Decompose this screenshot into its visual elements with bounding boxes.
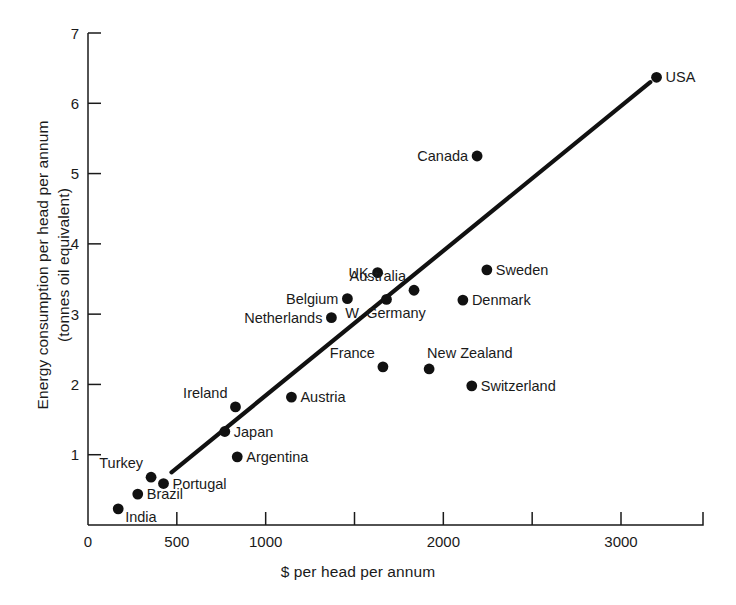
data-point-marker bbox=[146, 472, 157, 483]
y-axis-tick-label: 7 bbox=[71, 25, 79, 42]
data-point: Netherlands bbox=[244, 310, 337, 326]
x-axis-tick-label: 500 bbox=[164, 533, 189, 550]
data-point-marker bbox=[424, 364, 435, 375]
data-point-marker bbox=[326, 312, 337, 323]
data-point-label: France bbox=[330, 345, 375, 361]
data-point-label: W. Germany bbox=[345, 305, 426, 321]
data-point-marker bbox=[232, 451, 243, 462]
data-point-marker bbox=[651, 72, 662, 83]
data-point-marker bbox=[342, 293, 353, 304]
data-point-marker bbox=[219, 426, 230, 437]
axes-group: 12345670500100020003000 bbox=[71, 25, 703, 551]
x-axis-tick-label: 3000 bbox=[604, 533, 637, 550]
y-axis-tick-label: 4 bbox=[71, 235, 79, 252]
data-point-label: Japan bbox=[234, 424, 274, 440]
data-point-label: USA bbox=[666, 69, 696, 85]
data-point-label: India bbox=[125, 509, 157, 525]
data-point: Brazil bbox=[132, 486, 183, 502]
data-point-marker bbox=[132, 489, 143, 500]
data-point: India bbox=[113, 503, 158, 524]
data-point-marker bbox=[472, 151, 483, 162]
data-point: Belgium bbox=[286, 291, 353, 307]
data-point-marker bbox=[381, 294, 392, 305]
data-point-label: Belgium bbox=[286, 291, 338, 307]
trend-line bbox=[172, 82, 651, 472]
data-point-marker bbox=[457, 295, 468, 306]
data-point-label: Denmark bbox=[472, 292, 532, 308]
data-point: USA bbox=[651, 69, 696, 85]
data-point-label: Australia bbox=[350, 268, 407, 284]
data-point: W. Germany bbox=[345, 294, 426, 321]
data-point: Ireland bbox=[183, 385, 241, 412]
data-point-marker bbox=[286, 392, 297, 403]
data-point-label: Ireland bbox=[183, 385, 227, 401]
data-point-marker bbox=[409, 285, 420, 296]
data-point: Sweden bbox=[481, 262, 548, 278]
data-point: Canada bbox=[417, 148, 482, 164]
data-point: Denmark bbox=[457, 292, 531, 308]
data-point: Australia bbox=[350, 268, 420, 295]
plot-canvas: 12345670500100020003000 USACanadaSwedenU… bbox=[0, 0, 736, 605]
data-point: Argentina bbox=[232, 449, 309, 465]
y-axis-tick-label: 5 bbox=[71, 165, 79, 182]
x-axis-tick-label: 2000 bbox=[427, 533, 460, 550]
data-point-marker bbox=[113, 503, 124, 514]
data-point-label: Austria bbox=[300, 389, 346, 405]
data-point: Austria bbox=[286, 389, 346, 405]
data-point: New Zealand bbox=[424, 345, 513, 374]
data-point-label: Switzerland bbox=[481, 378, 556, 394]
trend-line-group bbox=[172, 82, 651, 472]
data-point-marker bbox=[481, 264, 492, 275]
data-point-label: New Zealand bbox=[427, 345, 512, 361]
x-axis-tick-label: 1000 bbox=[249, 533, 282, 550]
data-point-marker bbox=[230, 402, 241, 413]
scatter-plot-figure: 12345670500100020003000 USACanadaSwedenU… bbox=[0, 0, 736, 605]
data-point-label: Brazil bbox=[147, 486, 183, 502]
data-point-marker bbox=[378, 361, 389, 372]
data-point-label: Sweden bbox=[496, 262, 548, 278]
x-axis-spine bbox=[88, 512, 703, 525]
data-point: Turkey bbox=[99, 455, 156, 482]
data-point-label: Argentina bbox=[246, 449, 309, 465]
y-axis-tick-label: 2 bbox=[71, 376, 79, 393]
data-point-marker bbox=[466, 380, 477, 391]
data-point: Switzerland bbox=[466, 378, 555, 394]
y-axis-tick-label: 1 bbox=[71, 446, 79, 463]
data-point: France bbox=[330, 345, 389, 372]
x-axis-tick-label: 0 bbox=[84, 533, 92, 550]
data-point-label: Canada bbox=[417, 148, 469, 164]
y-axis-tick-label: 3 bbox=[71, 306, 79, 323]
data-point-label: Netherlands bbox=[244, 310, 322, 326]
y-axis-tick-label: 6 bbox=[71, 95, 79, 112]
data-point-label: Turkey bbox=[99, 455, 144, 471]
